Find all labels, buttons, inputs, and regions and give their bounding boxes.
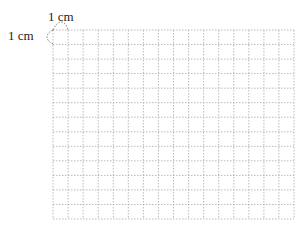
- square-grid: [0, 0, 305, 241]
- grid-lines: [53, 30, 294, 219]
- top-bracket-icon: [53, 22, 68, 30]
- cell-dimension-annotation: [47, 22, 68, 44]
- left-bracket-icon: [47, 30, 53, 44]
